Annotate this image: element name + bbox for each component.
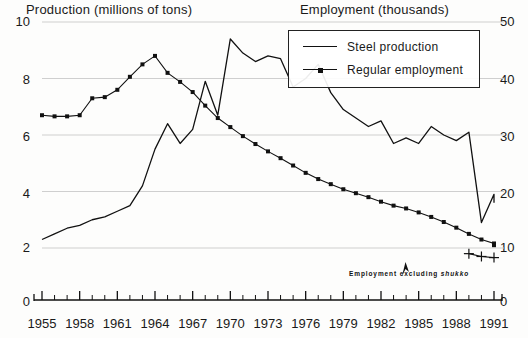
line-square-swatch-icon: [303, 64, 337, 76]
legend-item-regular-employment: Regular employment: [303, 60, 463, 80]
annotation-prefix: Employment excluding: [349, 270, 441, 277]
chart-container: Production (millions of tons) Employment…: [0, 0, 528, 338]
legend: Steel production Regular employment: [288, 30, 480, 88]
annotation-employment-excluding-shukko: Employment excluding shukko: [349, 270, 469, 277]
legend-item-steel-production: Steel production: [303, 37, 439, 57]
annotation-italic-term: shukko: [441, 270, 469, 277]
legend-item-label: Regular employment: [347, 63, 463, 77]
x-axis-tick: 1991: [472, 316, 516, 331]
legend-item-label: Steel production: [347, 40, 439, 54]
line-swatch-icon: [303, 41, 337, 53]
